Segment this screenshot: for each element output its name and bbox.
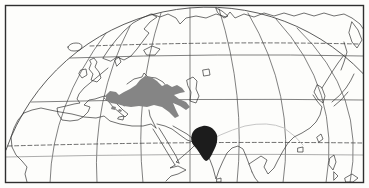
map-svg [0, 0, 369, 188]
paper-background [0, 0, 369, 188]
world-map-figure [0, 0, 369, 188]
